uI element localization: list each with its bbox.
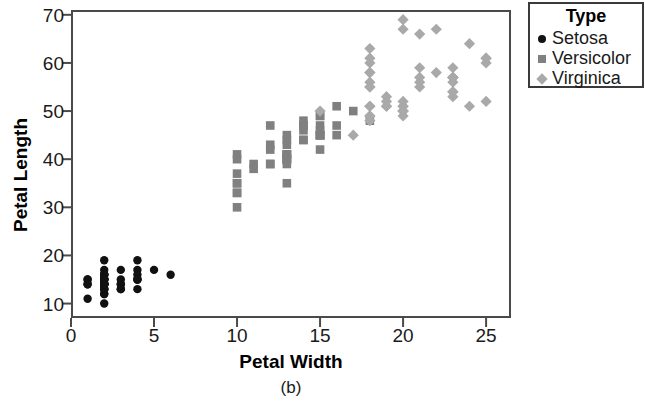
x-tick-label: 0 xyxy=(51,326,91,345)
legend-label: Virginica xyxy=(552,69,621,87)
legend-item-versicolor[interactable]: Versicolor xyxy=(530,48,642,68)
legend-swatch-shape xyxy=(536,73,547,84)
x-tick-label: 15 xyxy=(300,326,340,345)
y-axis-title: Petal Length xyxy=(10,70,32,280)
x-tick-label: 25 xyxy=(466,326,506,345)
square-marker-icon xyxy=(535,51,549,65)
figure-caption: (b) xyxy=(71,378,511,398)
y-tick-label: 10 xyxy=(22,294,64,313)
chart-page: 10203040506070 0510152025 Petal Length P… xyxy=(0,0,645,405)
legend-swatch-shape xyxy=(538,55,546,63)
legend-item-virginica[interactable]: Virginica xyxy=(530,68,642,88)
legend-title: Type xyxy=(530,7,642,27)
x-tick-label: 5 xyxy=(134,326,174,345)
legend: Type SetosaVersicolorVirginica xyxy=(528,2,644,88)
circle-marker-icon xyxy=(535,31,549,45)
legend-label: Setosa xyxy=(552,29,608,47)
diamond-marker-icon xyxy=(535,71,549,85)
x-tick-label: 20 xyxy=(383,326,423,345)
plot-area xyxy=(71,10,511,318)
legend-swatch-shape xyxy=(538,35,546,43)
y-tick-label: 70 xyxy=(22,5,64,24)
legend-label: Versicolor xyxy=(552,49,631,67)
legend-item-setosa[interactable]: Setosa xyxy=(530,28,642,48)
x-axis-title: Petal Width xyxy=(71,351,511,373)
legend-entries: SetosaVersicolorVirginica xyxy=(530,28,642,88)
x-tick-label: 10 xyxy=(217,326,257,345)
